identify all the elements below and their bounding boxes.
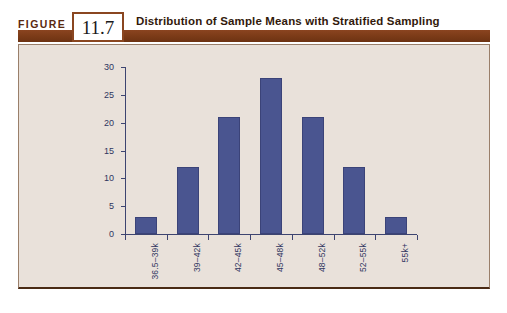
bar — [218, 117, 240, 234]
y-axis-tick-label: 30 — [104, 62, 114, 72]
bar — [385, 217, 407, 234]
x-axis-line — [125, 234, 417, 235]
y-axis-tick-label: 5 — [109, 201, 114, 211]
bar — [343, 167, 365, 234]
bar-series — [125, 67, 417, 234]
y-axis-tick-label: 20 — [104, 118, 114, 128]
x-axis-tick-label: 48–52k — [317, 243, 327, 272]
x-axis-tick-label: 52–55k — [358, 243, 368, 272]
y-axis-tick-label: 25 — [104, 90, 114, 100]
figure-container: FIGURE 11.7 Distribution of Sample Means… — [0, 0, 507, 313]
y-axis-tick-label: 10 — [104, 173, 114, 183]
x-axis-tick — [375, 235, 376, 240]
bar — [135, 217, 157, 234]
x-axis-tick-label: 36.5–39k — [150, 243, 160, 280]
x-axis-tick-label: 55k+ — [400, 243, 410, 262]
bar — [302, 117, 324, 234]
y-axis-tick-label: 0 — [109, 229, 114, 239]
x-axis-tick — [292, 235, 293, 240]
bar — [177, 167, 199, 234]
x-axis-tick — [125, 235, 126, 240]
x-axis-tick — [208, 235, 209, 240]
figure-title: Distribution of Sample Means with Strati… — [136, 15, 440, 27]
x-axis-tick — [417, 235, 418, 240]
figure-number-box: 11.7 — [72, 12, 124, 42]
plot-area: 051015202530 36.5–39k39–42k42–45k45–48k4… — [125, 67, 417, 255]
chart-panel: 051015202530 36.5–39k39–42k42–45k45–48k4… — [18, 44, 490, 289]
x-axis-tick-label: 39–42k — [192, 243, 202, 272]
x-axis-tick-label: 45–48k — [275, 243, 285, 272]
x-axis-tick — [334, 235, 335, 240]
bar — [260, 78, 282, 234]
figure-label: FIGURE — [18, 18, 66, 30]
x-axis-tick — [250, 235, 251, 240]
figure-number: 11.7 — [82, 18, 115, 37]
y-axis-tick-label: 15 — [104, 146, 114, 156]
x-axis-tick — [167, 235, 168, 240]
x-axis-tick-label: 42–45k — [233, 243, 243, 272]
